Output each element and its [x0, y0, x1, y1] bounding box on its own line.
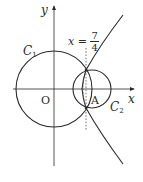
fraction-denominator: 4	[90, 42, 98, 53]
intersection-point-upper	[85, 69, 88, 72]
origin-label: O	[41, 95, 50, 106]
c2-subscript: 2	[119, 107, 123, 115]
fraction-numerator: 7	[90, 30, 98, 42]
y-axis-label: y	[41, 4, 48, 16]
c2-name: C	[110, 100, 119, 114]
point-a-label: A	[91, 95, 99, 106]
fraction-7-4: 7 4	[90, 30, 98, 53]
c1-label: C1	[23, 45, 37, 59]
c1-subscript: 1	[32, 51, 36, 59]
line-equation-lhs: x =	[68, 35, 87, 48]
intersection-point-lower	[85, 107, 88, 110]
c1-name: C	[23, 44, 32, 58]
x-axis-label: x	[128, 93, 135, 105]
line-equation-label: x = 7 4	[68, 30, 99, 53]
coordinate-diagram: y x O A C1 C2 x = 7 4	[0, 0, 143, 182]
c2-label: C2	[110, 101, 124, 115]
diagram-canvas	[0, 0, 143, 182]
